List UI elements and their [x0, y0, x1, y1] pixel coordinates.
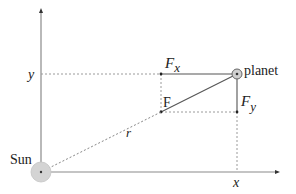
fx-label: Fx — [164, 55, 180, 75]
fy-arrow-tip-icon — [236, 111, 239, 114]
sun-center — [40, 171, 42, 173]
radius-line — [41, 112, 161, 172]
fx-arrow-tip-icon — [160, 73, 163, 76]
y-axis-label: y — [26, 67, 35, 82]
x-axis-arrow-icon — [275, 170, 280, 174]
fy-label: Fy — [240, 93, 256, 114]
fx-label-sub: x — [173, 60, 180, 75]
force-label: F — [163, 95, 171, 110]
gravity-force-diagram: y x Sun planet F r Fx Fy — [0, 0, 296, 194]
force-vector — [161, 74, 237, 112]
x-axis-label: x — [232, 175, 240, 190]
sun-label: Sun — [10, 152, 32, 167]
planet-center — [236, 73, 239, 76]
y-axis-arrow-icon — [39, 8, 43, 13]
planet-label: planet — [244, 63, 278, 78]
fy-label-sub: y — [248, 99, 256, 114]
